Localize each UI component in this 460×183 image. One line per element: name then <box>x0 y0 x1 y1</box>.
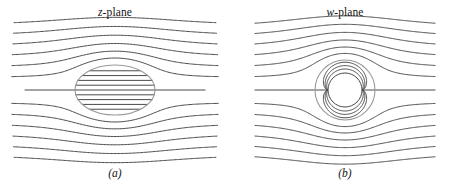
streamline <box>255 32 435 44</box>
z-plane-title: z-plane <box>0 6 230 18</box>
streamline <box>12 103 219 122</box>
panel-w-plane: w-plane (b) <box>230 0 460 183</box>
w-plane-caption: (b) <box>230 167 460 179</box>
streamline <box>12 43 217 54</box>
w-plane-streamline-group <box>255 16 435 164</box>
streamline <box>13 136 217 145</box>
panel-z-plane: z-plane (a) <box>0 0 230 183</box>
streamline <box>14 157 216 162</box>
w-plane-title: w-plane <box>230 6 460 18</box>
z-plane-title-suffix: -plane <box>103 6 132 18</box>
inner-circle-outline <box>328 73 362 107</box>
streamline <box>12 125 217 136</box>
streamline <box>255 136 435 148</box>
z-plane-caption: (a) <box>0 167 230 179</box>
w-plane-title-suffix: -plane <box>334 6 363 18</box>
streamline <box>12 58 219 77</box>
streamline <box>13 35 217 44</box>
streamline <box>255 157 435 164</box>
z-plane-streamline-plot <box>0 0 230 183</box>
streamline <box>14 147 217 154</box>
streamline <box>14 26 217 33</box>
z-plane-streamline-group <box>12 17 219 162</box>
streamline <box>14 17 216 22</box>
figure-root: z-plane (a) w-plane (b) <box>0 0 460 183</box>
w-plane-streamline-plot <box>230 0 460 183</box>
